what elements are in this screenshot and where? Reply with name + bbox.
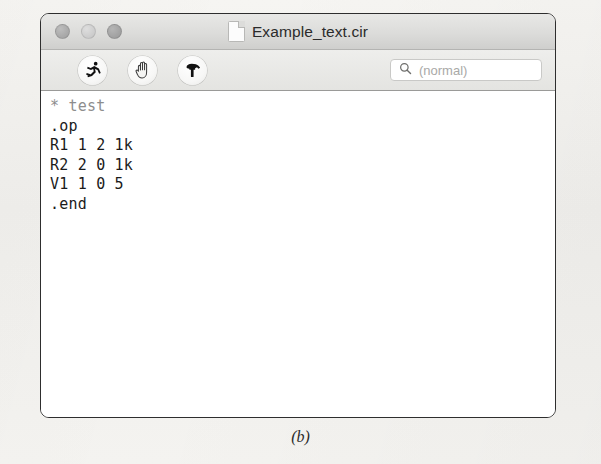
hand-icon	[134, 60, 152, 80]
search-icon	[399, 61, 412, 79]
code-line: V1 1 0 5	[50, 175, 555, 195]
code-line: R1 1 2 1k	[50, 136, 555, 156]
minimize-button[interactable]	[81, 24, 96, 39]
code-line: .op	[50, 117, 555, 137]
zoom-button[interactable]	[107, 24, 122, 39]
stop-button[interactable]	[128, 56, 157, 85]
document-icon	[228, 21, 245, 42]
build-button[interactable]	[178, 56, 207, 85]
close-button[interactable]	[55, 24, 70, 39]
hammer-icon	[183, 60, 203, 80]
search-field[interactable]: (normal)	[390, 59, 542, 81]
window-controls	[55, 24, 122, 39]
running-man-icon	[83, 60, 103, 80]
application-window: Example_text.cir	[40, 13, 556, 418]
run-button[interactable]	[78, 56, 107, 85]
code-line: * test	[50, 97, 555, 117]
toolbar: (normal)	[41, 50, 555, 91]
title-bar[interactable]: Example_text.cir	[41, 14, 555, 50]
code-line: R2 2 0 1k	[50, 156, 555, 176]
text-editor-area[interactable]: * test .op R1 1 2 1k R2 2 0 1k V1 1 0 5 …	[41, 91, 555, 418]
search-placeholder: (normal)	[419, 63, 467, 78]
figure-caption: (b)	[0, 428, 601, 446]
code-line: .end	[50, 195, 555, 215]
toolbar-button-group	[78, 56, 207, 85]
window-title: Example_text.cir	[252, 23, 368, 41]
